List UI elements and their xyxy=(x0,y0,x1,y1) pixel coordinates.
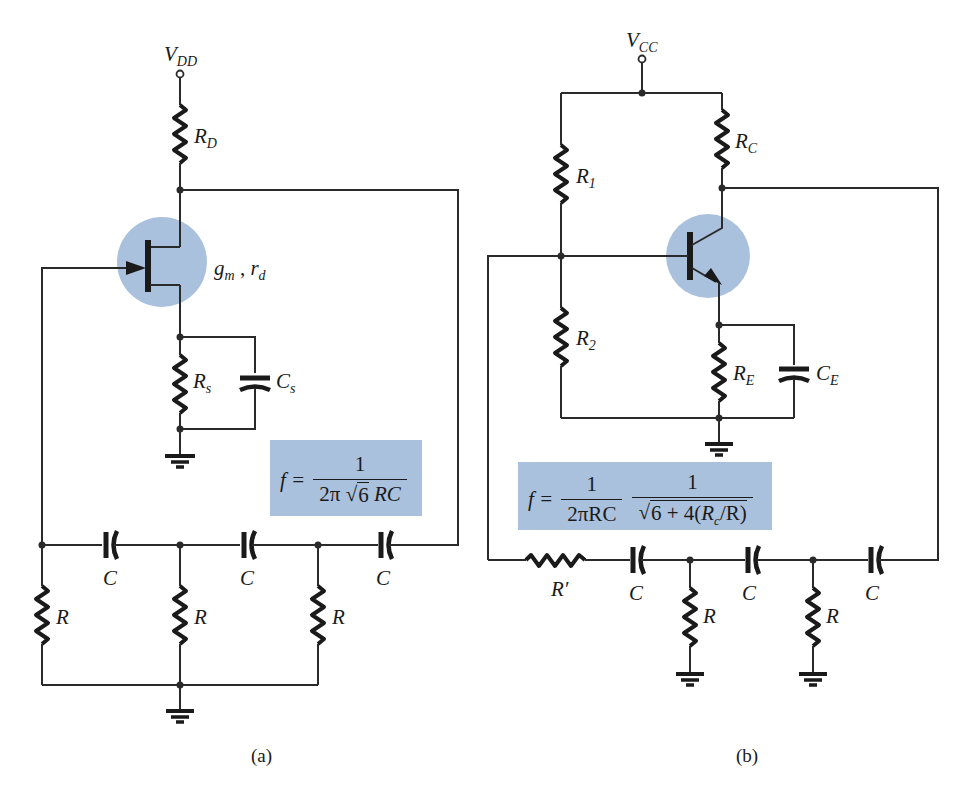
resistor-rd-icon xyxy=(174,105,186,163)
label-r2-a: R xyxy=(194,607,207,628)
resistor-r-prime-icon xyxy=(526,555,585,566)
resistor-r1-b-icon xyxy=(555,145,567,203)
resistor-r1-a-icon xyxy=(36,586,48,644)
formula-b: f = 1 2πRC 1 √6 + 4(Rc/R) xyxy=(528,470,757,529)
resistor-r2-ladder-b-icon xyxy=(807,588,819,646)
label-c2-a: C xyxy=(240,568,254,589)
caption-b: (b) xyxy=(736,746,758,765)
label-r-prime: R′ xyxy=(551,579,568,600)
vcc-terminal-icon xyxy=(639,56,646,63)
caption-a: (a) xyxy=(251,746,272,765)
label-r1-b: R1 xyxy=(576,166,596,191)
label-re: RE xyxy=(733,363,754,388)
vdd-terminal-icon xyxy=(177,71,184,78)
ground-icon-b2 xyxy=(676,674,704,685)
ground-icon-a1 xyxy=(165,456,195,467)
label-r1-ladder-b: R xyxy=(703,606,716,627)
label-c1-a: C xyxy=(103,568,117,589)
schematic-canvas xyxy=(0,0,966,797)
label-c3-a: C xyxy=(376,568,390,589)
resistor-r1-ladder-b-icon xyxy=(684,588,696,646)
formula-a: f = 1 2π √6 RC xyxy=(280,452,411,508)
label-r3-a: R xyxy=(332,607,345,628)
label-ce: CE xyxy=(816,363,839,388)
label-r2-ladder-b: R xyxy=(826,606,839,627)
label-vcc: VCC xyxy=(626,30,658,55)
ground-icon-a2 xyxy=(166,711,194,722)
jfet-highlight xyxy=(117,217,207,307)
resistor-rc-icon xyxy=(716,110,728,168)
circuit-a xyxy=(36,71,458,723)
label-gm-rd: gm , rd xyxy=(214,258,266,283)
resistor-re-icon xyxy=(713,343,725,401)
label-r2-b: R2 xyxy=(576,328,596,353)
resistor-r3-a-icon xyxy=(312,586,324,644)
label-c1-b: C xyxy=(629,583,643,604)
ground-icon-b1 xyxy=(705,444,733,455)
label-rd: RD xyxy=(194,126,217,151)
ground-icon-b3 xyxy=(799,674,827,685)
label-c3-b: C xyxy=(865,583,879,604)
resistor-r2-a-icon xyxy=(174,586,186,644)
label-c2-b: C xyxy=(742,583,756,604)
label-rc: RC xyxy=(735,131,757,156)
label-cs: Cs xyxy=(276,371,295,396)
label-vdd: VDD xyxy=(164,44,197,69)
resistor-r2-b-icon xyxy=(555,308,567,366)
label-rs: Rs xyxy=(193,371,211,396)
resistor-rs-icon xyxy=(174,355,186,413)
label-r1-a: R xyxy=(56,607,69,628)
